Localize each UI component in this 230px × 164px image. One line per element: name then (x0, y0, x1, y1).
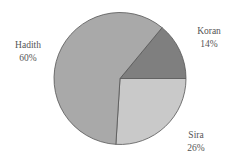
label-koran: Koran 14% (189, 25, 229, 51)
pie-slices (54, 12, 186, 144)
label-koran-pct: 14% (189, 38, 229, 51)
label-hadith-name: Hadith (8, 39, 48, 52)
label-koran-name: Koran (189, 25, 229, 38)
label-hadith: Hadith 60% (8, 39, 48, 65)
label-sira: Sira 26% (181, 129, 211, 155)
label-sira-name: Sira (181, 129, 211, 142)
label-sira-pct: 26% (181, 142, 211, 155)
slice-sira (116, 79, 186, 145)
label-hadith-pct: 60% (8, 52, 48, 65)
